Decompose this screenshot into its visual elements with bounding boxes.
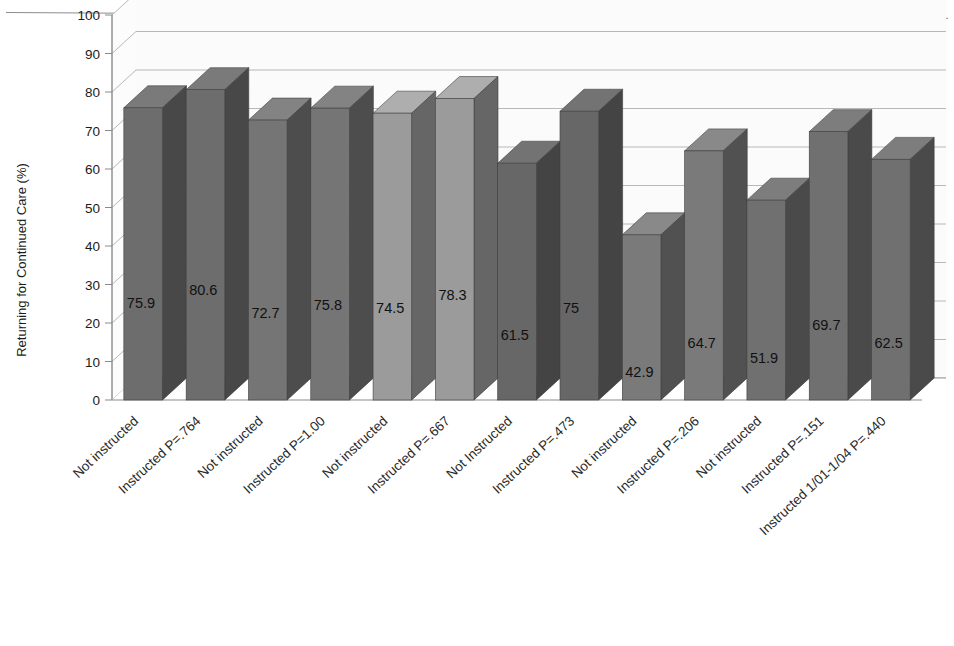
bar-value-label: 51.9	[750, 350, 778, 366]
bar	[809, 110, 872, 400]
bar-value-label: 72.7	[251, 305, 279, 321]
x-axis-category-labels: Not instructedInstructed P=.764Not instr…	[70, 413, 889, 538]
x-axis-category-label: Instructed 1/01-1/04 P=.440	[757, 413, 889, 538]
svg-text:80: 80	[85, 85, 100, 100]
bar-value-label: 75.9	[127, 295, 155, 311]
bar	[685, 129, 748, 400]
bar-value-label: 69.7	[812, 317, 840, 333]
bar-value-label: 78.3	[438, 287, 466, 303]
svg-text:20: 20	[85, 316, 100, 331]
svg-text:90: 90	[85, 47, 100, 62]
bar-value-label: 74.5	[376, 300, 404, 316]
bar-value-label: 64.7	[688, 335, 716, 351]
svg-text:70: 70	[85, 124, 100, 139]
svg-text:0: 0	[92, 393, 100, 408]
svg-text:60: 60	[85, 162, 100, 177]
svg-text:30: 30	[85, 278, 100, 293]
bar	[248, 98, 311, 400]
bar	[435, 77, 498, 400]
bar	[186, 68, 249, 400]
bar	[747, 178, 810, 400]
bar	[498, 141, 561, 400]
bar	[560, 89, 623, 400]
bar	[872, 137, 935, 400]
bar-value-label: 61.5	[501, 327, 529, 343]
svg-text:40: 40	[85, 239, 100, 254]
bar-value-label: 42.9	[625, 364, 653, 380]
y-axis-tick-labels: 0102030405060708090100	[77, 8, 100, 408]
bar-value-label: 75.8	[314, 297, 342, 313]
bar	[373, 91, 436, 400]
chart-plot-area: 0102030405060708090100 75.980.672.775.87…	[0, 0, 954, 586]
bar-value-label: 62.5	[875, 335, 903, 351]
svg-text:50: 50	[85, 201, 100, 216]
svg-text:100: 100	[77, 8, 100, 23]
chart-figure: FU Females FU Males FU Total NP Females …	[0, 0, 954, 646]
svg-text:10: 10	[85, 355, 100, 370]
bar	[124, 86, 187, 400]
bar-value-label: 80.6	[189, 282, 217, 298]
bar	[311, 86, 374, 400]
bar-value-label: 75	[563, 300, 579, 316]
